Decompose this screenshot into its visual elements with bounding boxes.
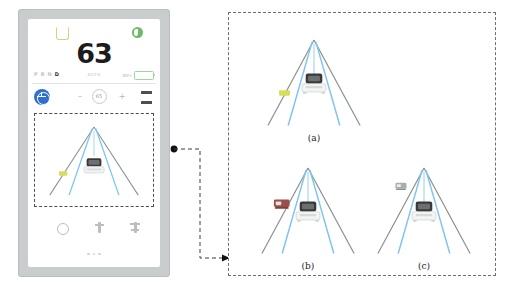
- battery-indicator: 88%: [123, 71, 155, 80]
- tablet-screen: 63 P R N D AUTO 88%: [28, 19, 160, 267]
- yellow-hazard-marker: [59, 171, 67, 176]
- battery-label: 88%: [123, 73, 132, 78]
- cruise-value: 65: [93, 93, 106, 99]
- menu-icon[interactable]: [141, 91, 152, 104]
- gear-and-battery-bar: P R N D AUTO 88%: [34, 70, 154, 81]
- callout-line: [174, 149, 222, 258]
- seat-heater-icon[interactable]: [128, 221, 142, 235]
- gear-r: R: [41, 71, 45, 77]
- divider: [32, 83, 156, 84]
- steering-wheel-icon: [37, 92, 50, 105]
- ac-dial-icon[interactable]: [56, 221, 70, 235]
- callout-anchor-dot: [171, 146, 178, 153]
- steering-wheel-button[interactable]: [34, 89, 50, 105]
- red-vehicle-icon: [274, 200, 290, 209]
- tablet-device: 63 P R N D AUTO 88%: [18, 9, 170, 277]
- road-scene-c: [365, 155, 483, 259]
- gray-vehicle-icon: [395, 183, 406, 190]
- yellow-hazard-marker: [279, 90, 290, 96]
- figure-panel: (a): [228, 12, 496, 276]
- cruise-set-display[interactable]: 65 SET: [90, 89, 108, 107]
- control-row: – 65 SET +: [32, 87, 156, 109]
- gear-d: D: [55, 71, 59, 77]
- road-scene-tablet: [35, 114, 153, 197]
- speed-value: 63: [28, 39, 160, 69]
- subfigure-b-label: (b): [249, 261, 367, 271]
- subfigure-b: [249, 155, 367, 259]
- increase-speed-button[interactable]: +: [118, 93, 126, 101]
- gear-p: P: [34, 71, 38, 77]
- home-indicator-dots: [28, 241, 160, 259]
- auto-label: AUTO: [88, 72, 101, 77]
- ego-vehicle-icon: [84, 158, 104, 173]
- subfigure-a-label: (a): [255, 133, 373, 143]
- figure-root: 63 P R N D AUTO 88%: [0, 0, 507, 288]
- gear-indicator: P R N D: [34, 71, 59, 77]
- gear-n: N: [48, 71, 52, 77]
- subfigure-c-label: (c): [365, 261, 483, 271]
- cruise-ring: 65: [92, 89, 107, 104]
- road-scene-b: [249, 155, 367, 259]
- decrease-speed-button[interactable]: –: [76, 93, 84, 101]
- subfigure-a: [255, 27, 373, 131]
- speed-display: 63: [28, 39, 160, 69]
- road-scene-a: [255, 27, 373, 131]
- fan-icon[interactable]: [92, 221, 106, 235]
- road-view-highlight-box: [34, 113, 154, 207]
- climate-control-row: [28, 219, 160, 239]
- subfigure-c: [365, 155, 483, 259]
- battery-shell: [134, 71, 154, 80]
